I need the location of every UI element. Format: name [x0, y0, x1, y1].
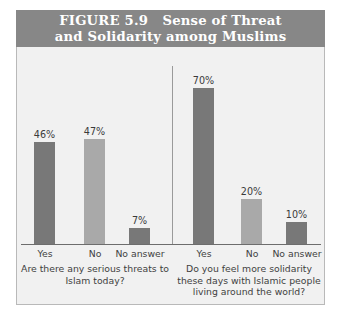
figure-title-line-1: FIGURE 5.9 Sense of Threat [59, 13, 282, 29]
question-line: these days with Islamic people [174, 275, 324, 287]
bar-value-label: 46% [21, 129, 68, 140]
figure-title-line-2: and Solidarity among Muslims [55, 29, 287, 45]
bar-value-label: 47% [71, 126, 118, 137]
chart-group-solidarity: 70% 20% 10% Yes No No answer [173, 47, 324, 244]
bar-slot: 20% [241, 66, 262, 244]
bar-slot: 46% [34, 66, 55, 244]
bar-no-solidarity [241, 199, 262, 244]
group-question-threat: Are there any serious threats to Islam t… [19, 263, 171, 286]
chart-group-threat: 46% 47% 7% Yes No No answer [17, 47, 172, 244]
bar-no-answer-solidarity [286, 222, 307, 244]
category-label-no-answer: No answer [264, 248, 330, 259]
chart-plot-area: 46% 47% 7% Yes No No answer Are there an… [16, 47, 325, 305]
question-line: Do you feel more solidarity [174, 263, 324, 275]
x-axis-baseline [21, 244, 321, 245]
figure-container: FIGURE 5.9 Sense of Threat and Solidarit… [16, 10, 325, 305]
question-line: living around the world? [174, 286, 324, 298]
figure-title-banner: FIGURE 5.9 Sense of Threat and Solidarit… [16, 10, 325, 47]
question-line: Are there any serious threats to [19, 263, 171, 275]
category-label-no-answer: No answer [107, 248, 173, 259]
bar-value-label: 20% [228, 186, 275, 197]
bar-value-label: 7% [116, 215, 163, 226]
bar-slot: 10% [286, 66, 307, 244]
bar-yes-threat [34, 142, 55, 244]
bar-value-label: 10% [273, 209, 320, 220]
bar-slot: 7% [129, 66, 150, 244]
bar-slot: 47% [84, 66, 105, 244]
bar-yes-solidarity [193, 88, 214, 244]
question-line: Islam today? [19, 275, 171, 287]
group-question-solidarity: Do you feel more solidarity these days w… [174, 263, 324, 298]
bar-slot: 70% [193, 66, 214, 244]
bar-no-answer-threat [129, 228, 150, 244]
bar-no-threat [84, 139, 105, 244]
bar-value-label: 70% [180, 75, 227, 86]
